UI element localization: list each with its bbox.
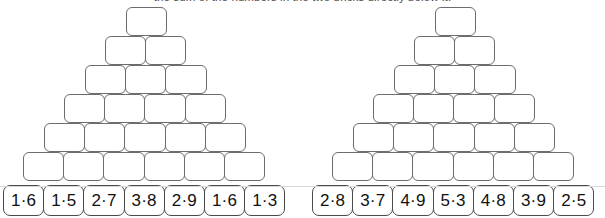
pyramid-row-3 [85,65,207,94]
pyramid-bottom-row: 2·8 3·7 4·9 5·3 4·8 3·9 2·5 [312,185,594,216]
pyramid-bottom-row: 1·6 1·5 2·7 3·8 2·9 1·6 1·3 [3,185,285,216]
brick-cell[interactable] [372,152,413,181]
brick-cell[interactable] [105,36,146,65]
brick-cell[interactable] [433,123,474,152]
brick-cell[interactable] [144,152,185,181]
worksheet-canvas: the sum of the numbers in the two bricks… [0,0,605,218]
pyramid-row-6 [332,152,574,181]
pyramid-row-2 [414,36,495,65]
brick-value-cell[interactable]: 3·7 [352,185,393,216]
brick-value-cell[interactable]: 4·9 [392,185,433,216]
brick-cell[interactable] [435,7,476,36]
brick-value-cell[interactable]: 3·9 [513,185,554,216]
brick-cell[interactable] [103,152,144,181]
brick-value-cell[interactable]: 2·5 [553,185,594,216]
brick-cell[interactable] [514,123,555,152]
brick-cell[interactable] [393,123,434,152]
brick-cell[interactable] [185,94,226,123]
brick-value-cell[interactable]: 2·8 [312,185,353,216]
brick-cell[interactable] [23,152,64,181]
baseline-rule [0,186,605,187]
brick-cell[interactable] [63,152,104,181]
brick-cell[interactable] [165,65,206,94]
brick-value-cell[interactable]: 1·3 [244,185,285,216]
brick-cell[interactable] [373,94,414,123]
brick-value-cell[interactable]: 5·3 [433,185,474,216]
brick-cell[interactable] [414,36,455,65]
pyramid-row-5 [353,123,555,152]
brick-value-cell[interactable]: 2·7 [83,185,124,216]
brick-cell[interactable] [494,94,535,123]
brick-cell[interactable] [353,123,394,152]
brick-value-cell[interactable]: 1·6 [3,185,44,216]
brick-cell[interactable] [453,152,494,181]
brick-cell[interactable] [64,94,105,123]
brick-cell[interactable] [434,65,475,94]
brick-cell[interactable] [104,94,145,123]
brick-cell[interactable] [125,65,166,94]
pyramid-row-2 [105,36,186,65]
brick-cell[interactable] [332,152,373,181]
brick-value-cell[interactable]: 4·8 [473,185,514,216]
brick-cell[interactable] [224,152,265,181]
brick-value-cell[interactable]: 2·9 [164,185,205,216]
brick-value-cell[interactable]: 3·8 [124,185,165,216]
brick-cell[interactable] [165,123,206,152]
brick-cell[interactable] [145,36,186,65]
pyramid-row-3 [394,65,516,94]
brick-cell[interactable] [453,94,494,123]
brick-cell[interactable] [84,123,125,152]
brick-cell[interactable] [474,65,515,94]
pyramid-row-5 [44,123,246,152]
pyramid-row-4 [373,94,535,123]
brick-cell[interactable] [184,152,225,181]
brick-cell[interactable] [85,65,126,94]
brick-cell[interactable] [144,94,185,123]
brick-cell[interactable] [44,123,85,152]
pyramid-row-1 [126,7,167,36]
brick-cell[interactable] [493,152,534,181]
pyramid-row-6 [23,152,265,181]
brick-cell[interactable] [533,152,574,181]
brick-cell[interactable] [412,152,453,181]
brick-cell[interactable] [474,123,515,152]
brick-cell[interactable] [126,7,167,36]
brick-cell[interactable] [205,123,246,152]
brick-cell[interactable] [454,36,495,65]
pyramid-row-4 [64,94,226,123]
pyramid-row-1 [435,7,476,36]
brick-value-cell[interactable]: 1·5 [43,185,84,216]
brick-cell[interactable] [413,94,454,123]
brick-cell[interactable] [124,123,165,152]
brick-cell[interactable] [394,65,435,94]
brick-value-cell[interactable]: 1·6 [204,185,245,216]
